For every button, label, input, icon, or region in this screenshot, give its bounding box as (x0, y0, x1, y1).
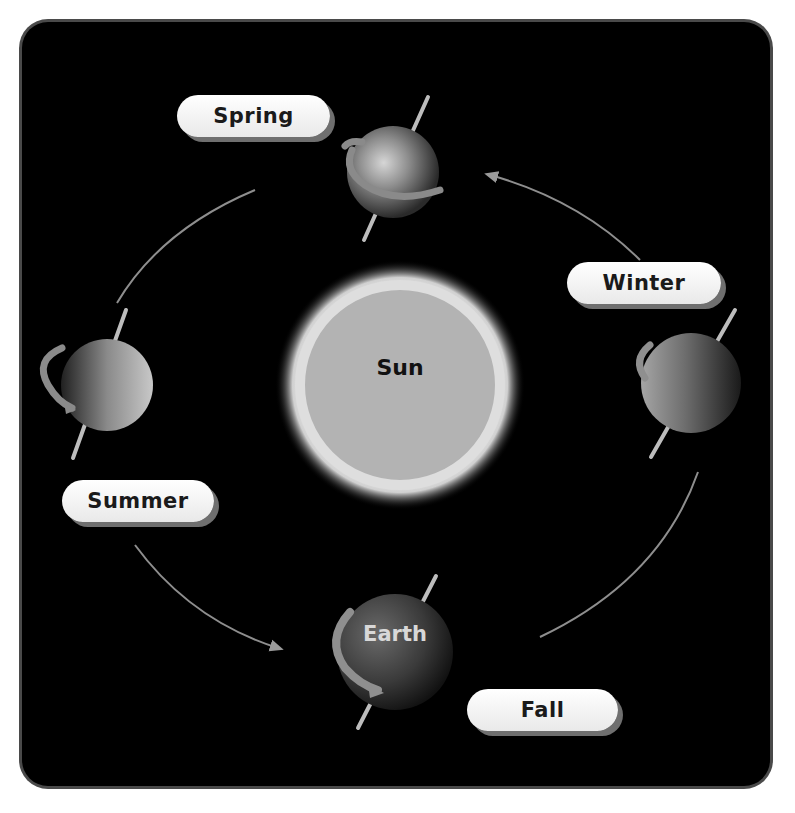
season-label-summer: Summer (62, 480, 214, 522)
earth-summer (43, 310, 153, 458)
sun-label: Sun (340, 355, 460, 380)
orbit-scene (0, 0, 795, 813)
season-label-fall: Fall (467, 689, 618, 731)
earth-label: Earth (345, 622, 445, 646)
earth-fall (336, 576, 453, 728)
earth-spring (345, 97, 440, 240)
season-label-winter: Winter (567, 262, 721, 304)
sun (275, 260, 525, 510)
earth-winter (640, 310, 741, 457)
season-label-spring: Spring (177, 95, 330, 137)
